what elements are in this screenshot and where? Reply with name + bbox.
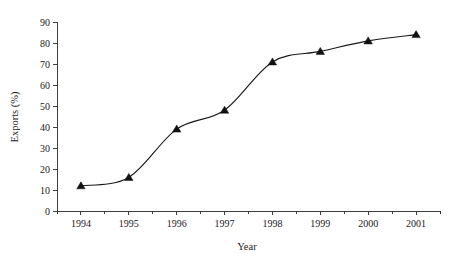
chart-figure: 0102030405060708090 Exports (%) 19941995…: [0, 0, 463, 260]
data-point-marker: [172, 125, 180, 132]
y-tick-label: 30: [40, 143, 50, 154]
x-tick-label: 2001: [406, 218, 426, 229]
data-point-marker: [268, 58, 276, 65]
y-tick-label: 0: [45, 206, 50, 217]
x-tick-marks: [57, 211, 440, 215]
series-markers-exports: [77, 31, 421, 189]
x-tick-label: 2000: [358, 218, 378, 229]
x-tick-label: 1998: [262, 218, 282, 229]
series-line-exports: [81, 35, 416, 186]
y-axis-title: Exports (%): [9, 91, 21, 143]
y-tick-label: 20: [40, 164, 50, 175]
x-axis-title: Year: [237, 241, 257, 252]
data-point-marker: [412, 31, 420, 38]
y-tick-labels: 0102030405060708090: [40, 17, 50, 217]
y-tick-label: 40: [40, 122, 50, 133]
x-tick-label: 1996: [167, 218, 187, 229]
data-point-marker: [125, 173, 133, 180]
y-tick-label: 70: [40, 59, 50, 70]
x-tick-label: 1997: [215, 218, 235, 229]
y-tick-label: 60: [40, 80, 50, 91]
line-chart: 0102030405060708090 Exports (%) 19941995…: [0, 0, 463, 260]
y-tick-label: 10: [40, 185, 50, 196]
x-tick-labels: 19941995199619971998199920002001: [71, 218, 426, 229]
y-tick-marks: [53, 22, 57, 211]
y-tick-label: 90: [40, 17, 50, 28]
x-tick-label: 1995: [119, 218, 139, 229]
y-tick-label: 50: [40, 101, 50, 112]
series-group: [77, 31, 421, 189]
y-tick-label: 80: [40, 38, 50, 49]
y-axis-group: 0102030405060708090 Exports (%): [9, 17, 57, 217]
x-axis-group: 19941995199619971998199920002001 Year: [57, 211, 440, 252]
x-tick-label: 1999: [310, 218, 330, 229]
x-tick-label: 1994: [71, 218, 91, 229]
